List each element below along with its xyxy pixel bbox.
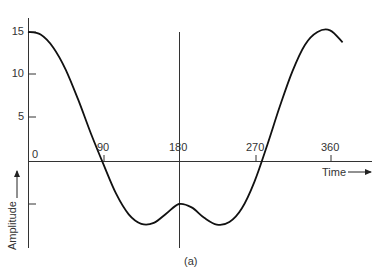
y-ticks	[28, 32, 36, 204]
x-tick-label-90: 90	[97, 142, 109, 153]
x-tick-label-360: 360	[321, 142, 339, 153]
waveform-chart	[0, 0, 386, 277]
y-tick-label-15: 15	[4, 26, 24, 37]
x-tick-label-270: 270	[246, 142, 264, 153]
y-tick-label-10: 10	[4, 68, 24, 79]
x-tick-label-180: 180	[169, 142, 187, 153]
y-tick-label-5: 5	[4, 111, 24, 122]
caption: (a)	[184, 256, 197, 267]
x-axis-label: Time	[322, 167, 346, 178]
origin-label: 0	[32, 149, 38, 160]
y-axis-label: Amplitude	[6, 201, 18, 250]
waveform-curve	[28, 29, 343, 224]
x-ticks	[104, 155, 331, 161]
